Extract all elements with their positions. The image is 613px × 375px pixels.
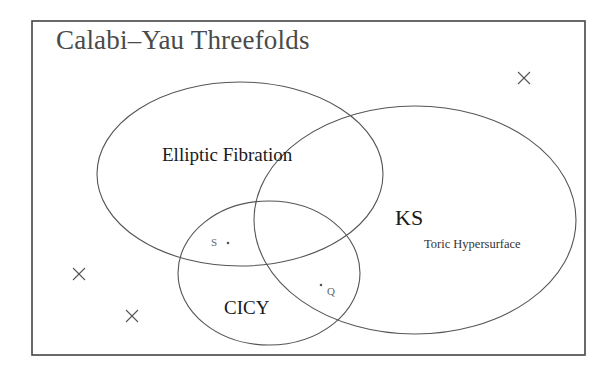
outlier-cross-icon [518,72,530,84]
cicy-label: CICY [224,298,269,317]
outlier-cross-icon [73,268,85,280]
cicy-set [178,201,360,345]
ks-label: KS [395,207,423,229]
elliptic-fibration-label: Elliptic Fibration [162,145,292,164]
point-q-dot [320,284,323,287]
outlier-cross-icon [126,310,138,322]
diagram-title: Calabi–Yau Threefolds [56,27,310,54]
point-s-dot [227,242,230,245]
elliptic-fibration-set [97,82,383,266]
toric-hypersurface-label: Toric Hypersurface [424,238,521,251]
point-q-label: Q [327,286,335,297]
diagram-canvas [0,0,613,375]
point-s-label: S [211,237,217,248]
venn-diagram: Calabi–Yau Threefolds Elliptic Fibration… [0,0,613,375]
